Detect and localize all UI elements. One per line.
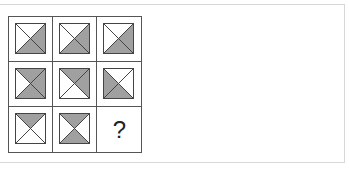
crossed-square-icon [103, 68, 134, 99]
puzzle-cell [9, 17, 53, 62]
crossed-square-icon [59, 113, 90, 144]
crossed-square-icon [15, 68, 46, 99]
puzzle-grid: ? [8, 16, 142, 153]
crossed-square-icon [59, 68, 90, 99]
puzzle-cell [97, 62, 142, 107]
puzzle-cell [53, 17, 97, 62]
crossed-square-icon [59, 23, 90, 54]
puzzle-cell: ? [97, 107, 142, 152]
puzzle-cell [53, 107, 97, 152]
crossed-square-icon [103, 23, 134, 54]
puzzle-cell [9, 62, 53, 107]
puzzle-cell [53, 62, 97, 107]
crossed-square-icon [15, 23, 46, 54]
crossed-square-icon [15, 113, 46, 144]
puzzle-cell [97, 17, 142, 62]
puzzle-cell [9, 107, 53, 152]
question-mark: ? [97, 107, 142, 152]
